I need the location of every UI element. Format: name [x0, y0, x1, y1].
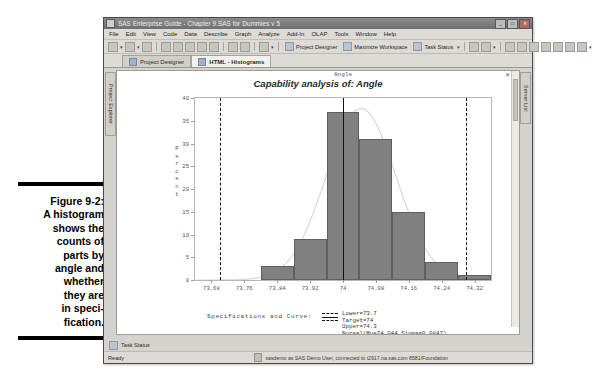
menu-item-edit[interactable]: Edit — [126, 31, 136, 37]
connection-status: sasdemo as SAS Demo User, connected to t… — [254, 353, 448, 362]
menu-item-view[interactable]: View — [143, 31, 156, 37]
menu-item-describe[interactable]: Describe — [204, 31, 228, 37]
chevron-down-icon[interactable]: ▾ — [457, 44, 460, 50]
menu-bar: File Edit View Code Data Describe Graph … — [104, 29, 532, 40]
histogram-bar — [359, 139, 392, 280]
toolbar-separator — [223, 42, 224, 51]
minimize-button[interactable]: _ — [495, 19, 506, 29]
histogram-bar — [392, 212, 425, 280]
scrollbar-thumb[interactable] — [513, 79, 518, 121]
legend-key-target — [322, 317, 338, 318]
maximize-button[interactable]: □ — [507, 19, 518, 29]
application-window: SAS Enterprise Guide - Chapter 9.SAS for… — [103, 17, 533, 364]
y-axis-tick-mark — [191, 189, 194, 190]
menu-item-tools[interactable]: Tools — [334, 31, 348, 37]
redo-icon[interactable] — [240, 42, 250, 52]
layout-icon[interactable] — [565, 42, 575, 52]
document-tab-strip: Project Designer HTML - Histograms — [104, 54, 532, 68]
histogram-bar — [425, 262, 458, 280]
toolbar-separator — [500, 42, 501, 51]
vertical-scrollbar[interactable] — [511, 71, 519, 327]
task-status-button[interactable]: Task Status — [411, 42, 455, 51]
open-icon[interactable] — [125, 42, 135, 52]
y-axis-tick-label: 15 — [173, 209, 189, 216]
menu-item-window[interactable]: Window — [355, 31, 376, 37]
window-controls: _ □ ✕ — [495, 19, 530, 29]
publish-icon[interactable] — [517, 42, 527, 52]
legend-body: Lower=73.7 Target=74 Upper=74.3 Normal(M… — [322, 311, 446, 335]
y-axis-label-char: e — [173, 153, 181, 161]
x-axis-tick-label: 73.92 — [302, 285, 319, 292]
maximize-workspace-icon — [343, 42, 352, 51]
title-bar[interactable]: SAS Enterprise Guide - Chapter 9.SAS for… — [104, 18, 532, 29]
properties-icon[interactable] — [541, 42, 551, 52]
dock-tab-project-explorer[interactable]: Project Explorer — [105, 72, 116, 136]
new-icon[interactable] — [108, 42, 118, 52]
y-axis-tick-mark — [191, 98, 194, 99]
chevron-down-icon[interactable]: ▾ — [271, 44, 274, 50]
legend-key-lower — [322, 313, 338, 314]
x-axis-tick-mark — [211, 280, 212, 283]
menu-item-graph[interactable]: Graph — [235, 31, 252, 37]
y-axis-tick-label: 20 — [173, 186, 189, 193]
caption-line: in speci- — [18, 302, 104, 315]
y-axis-tick-mark — [191, 235, 194, 236]
task-status-strip-icon — [109, 341, 118, 350]
y-axis-tick-mark — [191, 144, 194, 145]
menu-item-addin[interactable]: Add-In — [287, 31, 305, 37]
tab-label: Project Designer — [140, 59, 184, 65]
chevron-down-icon[interactable]: ▾ — [493, 44, 496, 50]
y-axis-tick-label: 0 — [173, 277, 189, 284]
y-axis-tick-label: 35 — [173, 118, 189, 125]
y-axis-tick-mark — [191, 166, 194, 167]
tab-html-histograms[interactable]: HTML - Histograms — [191, 55, 271, 67]
print-icon[interactable] — [161, 42, 171, 52]
menu-item-code[interactable]: Code — [163, 31, 177, 37]
caption-line: parts by — [18, 249, 104, 262]
schedule-icon[interactable] — [529, 42, 539, 52]
window-title: SAS Enterprise Guide - Chapter 9.SAS for… — [118, 20, 280, 27]
legend-title: Specifications and Curve: — [207, 311, 312, 320]
task-status-strip[interactable]: Task Status — [105, 339, 531, 351]
menu-item-data[interactable]: Data — [184, 31, 197, 37]
caption-line: shows the — [18, 222, 104, 235]
help-icon[interactable] — [577, 42, 587, 52]
x-axis-tick-mark — [409, 280, 410, 283]
refresh-icon[interactable] — [553, 42, 563, 52]
status-bar: Ready sasdemo as SAS Demo User, connecte… — [104, 351, 532, 363]
run-icon[interactable] — [469, 42, 479, 52]
menu-item-help[interactable]: Help — [384, 31, 396, 37]
stop-icon[interactable] — [481, 42, 491, 52]
y-axis-tick-mark — [191, 280, 194, 281]
dock-tab-server-list[interactable]: Server List — [520, 72, 531, 124]
chevron-down-icon[interactable]: ▾ — [137, 44, 140, 50]
project-designer-button[interactable]: Project Designer — [283, 42, 339, 51]
delete-icon[interactable] — [209, 42, 219, 52]
paste-icon[interactable] — [197, 42, 207, 52]
print-preview-icon[interactable] — [173, 42, 183, 52]
y-axis-tick-mark — [191, 121, 194, 122]
histogram-bar — [261, 266, 294, 280]
close-button[interactable]: ✕ — [519, 19, 530, 29]
tab-project-designer[interactable]: Project Designer — [122, 55, 191, 67]
menu-item-olap[interactable]: OLAP — [311, 31, 327, 37]
dock-tab-label: Server List — [523, 85, 529, 112]
export-icon[interactable] — [505, 42, 515, 52]
x-axis-tick-label: 74.24 — [433, 285, 450, 292]
project-designer-icon — [285, 42, 294, 51]
task-status-icon — [413, 42, 422, 51]
figure-caption: Figure 9-2: A histogram shows the counts… — [18, 182, 104, 340]
menu-item-file[interactable]: File — [109, 31, 119, 37]
html-result-pane: ✕ Capability analysis of: Angle Percent … — [116, 70, 520, 335]
chart-title: Capability analysis of: Angle — [117, 78, 519, 89]
chevron-down-icon[interactable]: ▾ — [120, 44, 123, 50]
x-axis-tick-mark — [376, 280, 377, 283]
search-icon[interactable] — [259, 42, 269, 52]
upper-spec-line — [466, 98, 467, 280]
maximize-workspace-button[interactable]: Maximize Workspace — [341, 42, 409, 51]
save-icon[interactable] — [142, 42, 152, 52]
legend-text: Lower=73.7 Target=74 Upper=74.3 Normal(M… — [342, 311, 446, 335]
menu-item-analyze[interactable]: Analyze — [258, 31, 279, 37]
undo-icon[interactable] — [228, 42, 238, 52]
copy-icon[interactable] — [185, 42, 195, 52]
